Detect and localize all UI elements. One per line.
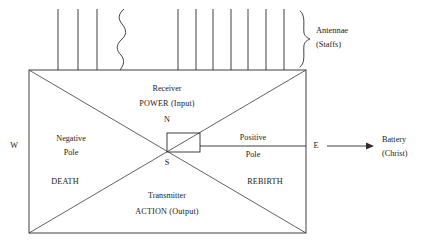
power-input-label: POWER (Input) (139, 99, 195, 108)
death-label: DEATH (51, 177, 79, 186)
north-label: N (164, 115, 170, 124)
positive-label: Positive (240, 133, 267, 142)
negative-label: Negative (56, 134, 86, 143)
west-label: W (10, 141, 18, 150)
battery-label-line2: (Christ) (382, 149, 408, 158)
receiver-label: Receiver (152, 84, 181, 93)
diagram-root: Antennae (Staffs) Receiver POWER (Input)… (0, 0, 427, 243)
action-output-label: ACTION (Output) (135, 207, 199, 216)
diagram-canvas: Antennae (Staffs) Receiver POWER (Input)… (0, 0, 427, 243)
negative-pole-label: Pole (64, 148, 79, 157)
battery-arrow-head (366, 143, 374, 150)
transmitter-label: Transmitter (148, 191, 186, 200)
antennae-label-line2: (Staffs) (316, 40, 341, 49)
east-label: E (313, 141, 318, 150)
positive-pole-label: Pole (246, 150, 261, 159)
south-label: S (165, 158, 170, 167)
antenna-group-left (58, 9, 97, 70)
antennae-brace-icon (300, 11, 310, 67)
antenna-wavy-staff (117, 9, 125, 70)
battery-label-line1: Battery (382, 135, 407, 144)
antennae-label-line1: Antennae (316, 26, 348, 35)
antenna-wavy-group (117, 9, 125, 70)
battery-arrow (327, 143, 374, 150)
antenna-group-right (178, 9, 284, 70)
rebirth-label: REBIRTH (247, 177, 283, 186)
